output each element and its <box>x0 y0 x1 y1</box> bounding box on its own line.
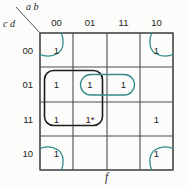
row-header-01: 01 <box>4 67 33 102</box>
row-header-10: 10 <box>4 136 33 170</box>
cell-ab00-cd10: 1 <box>40 136 73 170</box>
cell-ab11-cd00 <box>107 33 140 67</box>
cell-ab01-cd00 <box>73 33 107 67</box>
cell-ab10-cd00: 1 <box>140 33 173 67</box>
col-header-11: 11 <box>107 16 140 29</box>
cell-ab11-cd11 <box>107 102 140 136</box>
row-header-00: 00 <box>4 33 33 67</box>
cell-ab11-cd01: 1 <box>107 67 140 102</box>
col-header-10: 10 <box>140 16 173 29</box>
col-header-00: 00 <box>40 16 73 29</box>
cell-ab10-cd01 <box>140 67 173 102</box>
output-function-label: f <box>86 171 127 183</box>
cell-ab01-cd11: 1* <box>73 102 107 136</box>
col-vars-label: a b <box>26 1 39 12</box>
cell-ab10-cd11: 1 <box>140 102 173 136</box>
col-header-01: 01 <box>73 16 107 29</box>
cell-ab00-cd11: 1 <box>40 102 73 136</box>
cell-ab01-cd01: 1 <box>73 67 107 102</box>
row-vars-label: c d <box>3 18 15 29</box>
cell-ab10-cd10: 1 <box>140 136 173 170</box>
cell-ab00-cd01: 1 <box>40 67 73 102</box>
row-header-11: 11 <box>4 102 33 136</box>
karnaugh-map: a b c d f 00 01 11 10 00 01 11 10 1 1 1 … <box>0 0 190 190</box>
cell-ab00-cd00: 1 <box>40 33 73 67</box>
cell-ab01-cd10 <box>73 136 107 170</box>
cell-ab11-cd10 <box>107 136 140 170</box>
